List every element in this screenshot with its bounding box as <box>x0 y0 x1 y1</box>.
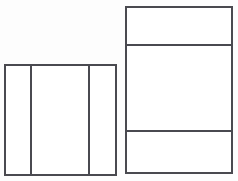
left-rectangle-fill <box>5 65 116 175</box>
left-rectangle[interactable] <box>5 65 116 175</box>
right-rectangle-fill <box>126 7 232 173</box>
shapes-diagram <box>0 0 238 181</box>
right-rectangle[interactable] <box>126 7 232 173</box>
diagram-canvas <box>0 0 238 181</box>
